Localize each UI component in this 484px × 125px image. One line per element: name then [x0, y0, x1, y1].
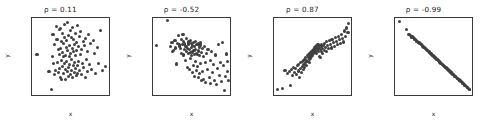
data-point	[289, 84, 292, 87]
x-axis-label: x	[31, 110, 110, 117]
data-point	[179, 47, 182, 50]
data-point	[81, 62, 84, 65]
y-tick-mark	[273, 91, 274, 92]
x-tick-mark	[165, 95, 166, 96]
x-axis-label: x	[273, 110, 352, 117]
data-point	[78, 69, 81, 72]
data-point	[169, 45, 172, 48]
data-point	[76, 72, 79, 75]
data-point	[191, 71, 194, 74]
data-point	[340, 33, 343, 36]
x-tick-mark	[327, 95, 328, 96]
data-point	[221, 41, 224, 44]
data-point	[52, 62, 55, 65]
data-point	[93, 52, 96, 55]
y-tick-mark	[152, 20, 153, 21]
y-tick-label: 1	[273, 20, 274, 27]
data-point	[82, 40, 85, 43]
data-point	[68, 63, 71, 66]
data-point	[193, 75, 196, 78]
x-tick-label: -2	[42, 95, 48, 96]
data-point	[298, 76, 301, 79]
panel-title: ρ = 0.87	[242, 5, 363, 14]
y-tick-label: -1	[31, 68, 32, 75]
y-tick-label: 0	[273, 31, 274, 38]
data-point	[59, 47, 62, 50]
data-point	[76, 64, 79, 67]
data-point	[333, 45, 336, 48]
plot-area: -6-4-20246-2-1012	[152, 17, 231, 96]
data-point	[55, 38, 58, 41]
y-tick-mark	[31, 43, 32, 44]
data-point	[66, 21, 69, 24]
data-point	[181, 33, 184, 36]
data-point	[79, 53, 82, 56]
panel-title: ρ = 0.11	[0, 5, 121, 14]
x-tick-mark	[286, 95, 287, 96]
data-point	[55, 25, 58, 28]
data-point	[90, 68, 93, 71]
x-tick-label: 1	[205, 95, 209, 96]
data-point	[65, 39, 68, 42]
y-axis-label: y	[245, 54, 252, 58]
x-tick-mark	[179, 95, 180, 96]
data-point	[223, 89, 226, 92]
data-point	[405, 28, 408, 31]
data-point	[51, 55, 54, 58]
x-tick-mark	[449, 95, 450, 96]
y-tick-mark	[394, 44, 395, 45]
y-tick-label: 2	[394, 27, 395, 34]
data-point	[57, 71, 60, 74]
data-point	[182, 53, 185, 56]
y-tick-mark	[152, 80, 153, 81]
data-point	[198, 72, 201, 75]
x-axis-label: x	[152, 110, 231, 117]
y-tick-mark	[152, 44, 153, 45]
data-point	[94, 72, 97, 75]
y-tick-mark	[394, 71, 395, 72]
scatter-panel-1: ρ = 0.11 -2-1012-2-1012 x y	[0, 0, 121, 125]
data-point	[205, 52, 208, 55]
scatter-panel-3: ρ = 0.87 -5-4-3-2-101-2-1012 x y	[242, 0, 363, 125]
y-tick-mark	[394, 85, 395, 86]
y-tick-mark	[273, 57, 274, 58]
data-point	[209, 59, 212, 62]
data-point	[77, 60, 80, 63]
data-point	[47, 70, 50, 73]
y-tick-label: 2	[152, 41, 153, 48]
data-point	[71, 76, 74, 79]
data-point	[85, 58, 88, 61]
y-tick-mark	[273, 23, 274, 24]
y-tick-label: -1	[273, 43, 274, 50]
x-tick-mark	[206, 95, 207, 96]
y-tick-mark	[31, 71, 32, 72]
data-point	[215, 83, 218, 86]
data-point	[60, 78, 63, 81]
data-point	[53, 43, 56, 46]
data-point	[96, 46, 99, 49]
scatter-plot-figure: ρ = 0.11 -2-1012-2-1012 x y ρ = -0.52 -6…	[0, 0, 484, 125]
x-tick-label: -2	[283, 95, 289, 96]
data-point	[224, 75, 227, 78]
data-point	[75, 49, 78, 52]
y-tick-mark	[394, 30, 395, 31]
data-point	[67, 66, 70, 69]
data-point	[51, 33, 54, 36]
data-point	[69, 29, 72, 32]
data-point	[342, 40, 345, 43]
y-tick-label: -2	[31, 82, 32, 89]
x-tick-label: 1	[83, 95, 87, 96]
y-tick-mark	[152, 56, 153, 57]
data-point	[212, 63, 215, 66]
data-point	[225, 52, 228, 55]
plot-area: -2-1012-2-1012	[31, 17, 110, 96]
x-tick-mark	[300, 95, 301, 96]
data-point	[71, 26, 74, 29]
data-point	[56, 61, 59, 64]
data-point	[97, 62, 100, 65]
data-point	[84, 37, 87, 40]
data-point	[199, 41, 202, 44]
y-tick-label: 0	[31, 54, 32, 61]
x-tick-mark	[341, 95, 342, 96]
y-tick-label: 0	[152, 53, 153, 60]
